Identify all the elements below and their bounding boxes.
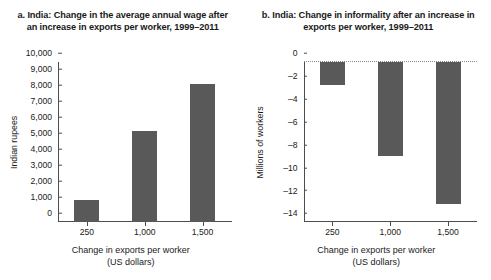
panel-a-x-tick-mark [87, 222, 88, 226]
panel-a-y-tick-mark [58, 101, 62, 102]
panel-b-x-tick-label: 1,000 [379, 228, 401, 237]
panel-a-x-axis-label-line2: (US dollars) [24, 256, 238, 268]
panel-b-y-tick-label: 0 [293, 49, 304, 58]
panel-a-y-tick-label: 4,000 [30, 145, 58, 154]
panel-a-x-axis-label-line1: Change in exports per worker [24, 244, 238, 256]
panel-a-y-axis-line [58, 62, 59, 222]
panel-a-bar [190, 84, 215, 222]
panel-a-y-tick-label: 0 [47, 209, 58, 218]
panel-b-y-tick-label: –4 [288, 95, 304, 104]
panel-a-y-tick-label: 2,000 [30, 177, 58, 186]
panel-b-x-tick-mark [448, 222, 449, 226]
panel-a-bar [132, 131, 157, 222]
panel-a-y-tick-mark [58, 213, 62, 214]
panel-a-y-tick-label: 9,000 [30, 65, 58, 74]
panel-b-y-tick-mark [304, 121, 308, 122]
panel-b-y-tick-label: –14 [283, 209, 303, 218]
panel-a-x-tick-label: 1,000 [134, 228, 156, 237]
panel-b-x-axis-label-line2: (US dollars) [270, 256, 484, 268]
panel-b-y-tick-label: –6 [288, 118, 304, 127]
panel-a-y-tick-mark [58, 53, 62, 54]
panel-a-y-tick-label: 8,000 [30, 81, 58, 90]
panel-b-y-tick-label: –8 [288, 141, 304, 150]
panel-b-x-axis-label-line1: Change in exports per worker [270, 244, 484, 256]
panel-b-plot-area: 0–2–4–6–8–10–12–142501,0001,500 [304, 62, 478, 222]
panel-a-y-tick-mark [58, 85, 62, 86]
panel-b-y-tick-mark [304, 76, 308, 77]
panel-a-y-tick-mark [58, 117, 62, 118]
panel-b-x-tick-label: 1,500 [437, 228, 459, 237]
panel-a-x-tick-mark [145, 222, 146, 226]
panel-b-bar [378, 62, 403, 156]
panel-b-x-tick-label: 250 [325, 228, 339, 237]
panel-b-bar [320, 62, 345, 85]
panel-a-y-tick-mark [58, 69, 62, 70]
panel-b-title: b. India: Change in informality after an… [246, 9, 491, 33]
panel-a-y-tick-label: 5,000 [30, 129, 58, 138]
panel-a-y-tick-label: 10,000 [26, 49, 58, 58]
figure-two-bar-charts: a. India: Change in the average annual w… [0, 0, 491, 280]
panel-a-title: a. India: Change in the average annual w… [0, 9, 246, 33]
panel-b-y-tick-mark [304, 190, 308, 191]
panel-a-x-tick-label: 250 [80, 228, 94, 237]
panel-a-x-tick-label: 1,500 [192, 228, 214, 237]
panel-a-y-tick-label: 3,000 [30, 161, 58, 170]
panel-a-y-tick-mark [58, 181, 62, 182]
panel-b-x-axis-label: Change in exports per worker (US dollars… [270, 244, 484, 268]
panel-a-y-tick-label: 7,000 [30, 97, 58, 106]
panel-a-y-tick-mark [58, 149, 62, 150]
panel-a-x-axis-label: Change in exports per worker (US dollars… [24, 244, 238, 268]
panel-a-x-tick-mark [203, 222, 204, 226]
panel-b-y-tick-mark [304, 144, 308, 145]
panel-b-y-tick-label: –12 [283, 186, 303, 195]
panel-b-y-tick-mark [304, 167, 308, 168]
panel-b-y-tick-label: –2 [288, 72, 304, 81]
panel-b-y-tick-mark [304, 53, 308, 54]
panel-b-x-tick-mark [390, 222, 391, 226]
panel-b-y-axis-line [304, 62, 305, 222]
panel-a-y-axis-label-text: Indian rupees [11, 115, 20, 168]
chart-panel-a: a. India: Change in the average annual w… [0, 0, 246, 280]
panel-b-bar [436, 62, 461, 204]
panel-a-plot-area: 01,0002,0003,0004,0005,0006,0007,0008,00… [58, 62, 232, 222]
panel-a-bar [74, 200, 99, 222]
panel-b-y-axis-label: Millions of workers [254, 62, 268, 222]
panel-a-y-tick-label: 6,000 [30, 113, 58, 122]
panel-b-x-tick-mark [332, 222, 333, 226]
panel-a-y-tick-mark [58, 197, 62, 198]
panel-b-y-tick-mark [304, 99, 308, 100]
panel-a-y-tick-label: 1,000 [30, 193, 58, 202]
panel-b-y-tick-mark [304, 213, 308, 214]
panel-a-y-tick-mark [58, 165, 62, 166]
chart-panel-b: b. India: Change in informality after an… [246, 0, 491, 280]
panel-a-y-axis-label: Indian rupees [8, 62, 22, 222]
panel-b-y-tick-label: –10 [283, 163, 303, 172]
panel-b-y-axis-label-text: Millions of workers [256, 106, 265, 178]
panel-a-y-tick-mark [58, 133, 62, 134]
